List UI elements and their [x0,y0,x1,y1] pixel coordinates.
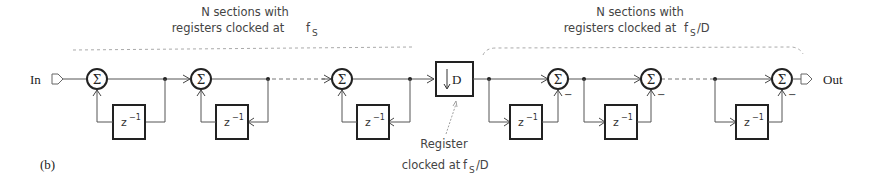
delay-block [510,105,542,139]
svg-text:−1: −1 [621,113,633,122]
svg-text:z: z [365,116,371,129]
input-label: In [30,72,41,87]
svg-text:registers clocked at: registers clocked at [172,21,285,35]
integrator-group-label: N sections with registers clocked at f S [73,5,412,50]
svg-text:−1: −1 [373,113,385,122]
register-note: Register clocked at f S /D [402,137,489,175]
integrator-group-brace [73,47,412,50]
svg-text:Σ: Σ [197,73,205,87]
svg-text:f: f [463,158,468,172]
panel-label: (b) [40,157,55,172]
svg-text:−: − [657,89,665,100]
delay-block [605,105,637,139]
output-label: Out [823,72,843,87]
svg-text:f: f [684,21,689,35]
svg-text:Σ: Σ [338,73,346,87]
comb-group-label: N sections with registers clocked at f S… [483,5,803,55]
svg-text:/D: /D [476,158,489,172]
svg-text:f: f [306,21,311,35]
svg-text:S: S [469,165,475,175]
svg-text:clocked at: clocked at [402,158,461,172]
comb-group-brace [483,47,803,55]
input-port-icon [52,74,63,84]
svg-text:Σ: Σ [647,73,655,87]
svg-text:z: z [121,116,127,129]
svg-text:−1: −1 [232,113,244,122]
downsampler-block: D [436,62,473,134]
svg-text:−: − [564,89,572,100]
svg-text:S: S [690,28,696,38]
delay-block [736,105,768,139]
svg-text:z: z [224,116,230,129]
svg-text:−1: −1 [526,113,538,122]
svg-text:−1: −1 [129,113,141,122]
svg-text:Σ: Σ [554,73,562,87]
svg-text:−1: −1 [752,113,764,122]
svg-text:Register: Register [420,137,468,151]
svg-text:N sections with: N sections with [596,5,684,19]
delay-block [216,105,248,139]
diagram-svg: N sections with registers clocked at f S… [0,0,885,190]
svg-text:z: z [613,116,619,129]
svg-text:z: z [518,116,524,129]
svg-text:D: D [452,72,461,87]
svg-text:z: z [744,116,750,129]
svg-text:/D: /D [697,21,710,35]
svg-text:Σ: Σ [778,73,786,87]
delay-block [357,105,389,139]
svg-text:registers clocked at: registers clocked at [564,21,677,35]
output-port-icon [801,74,812,84]
cic-decimator-diagram: N sections with registers clocked at f S… [0,0,885,190]
svg-text:N sections with: N sections with [201,5,289,19]
svg-text:Σ: Σ [93,73,101,87]
svg-text:S: S [312,28,318,38]
svg-text:−: − [788,89,796,100]
delay-block [113,105,145,139]
